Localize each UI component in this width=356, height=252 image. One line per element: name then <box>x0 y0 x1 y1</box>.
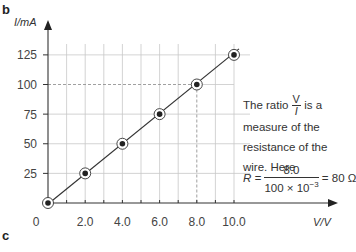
equation-fraction: 8.0 100 × 10−3 <box>264 164 318 195</box>
svg-text:25: 25 <box>24 167 38 181</box>
svg-text:4.0: 4.0 <box>114 215 131 229</box>
svg-text:125: 125 <box>17 48 37 62</box>
svg-text:100: 100 <box>17 78 37 92</box>
svg-text:V/V: V/V <box>313 216 332 228</box>
svg-text:10.0: 10.0 <box>222 215 246 229</box>
data-point <box>80 168 91 179</box>
data-point <box>191 79 202 90</box>
svg-text:75: 75 <box>24 108 38 122</box>
svg-text:50: 50 <box>24 137 38 151</box>
svg-text:0: 0 <box>33 215 40 229</box>
svg-text:2.0: 2.0 <box>77 215 94 229</box>
data-point <box>154 109 165 120</box>
data-point <box>43 198 54 209</box>
annotation-text: The ratio <box>243 99 288 111</box>
svg-text:I/mA: I/mA <box>14 16 37 28</box>
resistance-equation: R = 8.0 100 × 10−3 = 80 Ω <box>243 164 356 195</box>
svg-text:6.0: 6.0 <box>151 215 168 229</box>
data-point <box>117 138 128 149</box>
data-point <box>229 49 240 60</box>
v-over-i-fraction: V I <box>292 94 301 117</box>
svg-text:8.0: 8.0 <box>188 215 205 229</box>
